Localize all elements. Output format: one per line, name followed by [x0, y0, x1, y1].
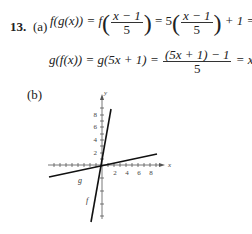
svg-text:4: 4: [94, 136, 98, 144]
label-g: g: [78, 176, 82, 185]
svg-text:8: 8: [149, 169, 153, 177]
function-graph: 2 4 6 8 2 4 6 8 x y g f: [0, 0, 252, 234]
svg-text:8: 8: [94, 111, 98, 119]
y-axis-label: y: [103, 89, 108, 97]
svg-text:6: 6: [94, 123, 98, 131]
svg-text:6: 6: [137, 169, 141, 177]
label-f: f: [86, 196, 90, 205]
x-axis-arrow-icon: [159, 163, 165, 167]
svg-text:2: 2: [113, 169, 117, 177]
x-axis-label: x: [167, 161, 172, 169]
svg-text:2: 2: [94, 149, 98, 157]
svg-text:4: 4: [125, 169, 129, 177]
axes: [48, 97, 162, 219]
